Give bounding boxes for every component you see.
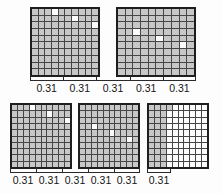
shaded-hundredth-cell [79, 69, 85, 75]
shaded-hundredth-cell [65, 22, 71, 28]
shaded-hundredth-cell [187, 42, 194, 48]
shaded-hundredth-cell [12, 105, 17, 110]
shaded-hundredth-cell [141, 63, 148, 69]
unshaded-hundredth-cell [173, 155, 178, 160]
shaded-hundredth-cell [104, 105, 109, 110]
shaded-hundredth-cell [24, 130, 29, 135]
shaded-hundredth-cell [36, 162, 41, 167]
shaded-hundredth-cell [149, 63, 156, 69]
shaded-hundredth-cell [104, 155, 109, 160]
unshaded-hundredth-cell [190, 111, 195, 116]
shaded-hundredth-cell [24, 162, 29, 167]
unshaded-hundredth-cell [179, 105, 184, 110]
shaded-hundredth-cell [115, 162, 120, 167]
shaded-hundredth-cell [52, 69, 58, 75]
shaded-hundredth-cell [115, 105, 120, 110]
shaded-hundredth-cell [72, 63, 78, 69]
unshaded-hundredth-cell [202, 105, 207, 110]
shaded-hundredth-cell [127, 124, 132, 129]
shaded-hundredth-cell [30, 149, 35, 154]
shaded-hundredth-cell [53, 137, 58, 142]
shaded-hundredth-cell [161, 155, 166, 160]
top-bracket-ruler [30, 80, 196, 81]
shaded-hundredth-cell [32, 36, 38, 42]
shaded-hundredth-cell [167, 105, 172, 110]
shaded-hundredth-cell [32, 63, 38, 69]
unshaded-hundredth-cell [196, 118, 201, 123]
unshaded-hundredth-cell [173, 130, 178, 135]
shaded-hundredth-cell [126, 9, 133, 15]
shaded-hundredth-cell [12, 149, 17, 154]
shaded-hundredth-cell [86, 124, 91, 129]
unshaded-hundredth-cell [190, 105, 195, 110]
shaded-hundredth-cell [45, 16, 51, 22]
shaded-hundredth-cell [127, 118, 132, 123]
shaded-hundredth-cell [164, 49, 171, 55]
unshaded-hundredth-cell [52, 9, 58, 15]
unshaded-hundredth-cell [196, 162, 201, 167]
shaded-hundredth-cell [161, 105, 166, 110]
shaded-hundredth-cell [45, 9, 51, 15]
shaded-hundredth-cell [59, 143, 64, 148]
shaded-hundredth-cell [72, 29, 78, 35]
unshaded-hundredth-cell [190, 143, 195, 148]
shaded-hundredth-cell [24, 105, 29, 110]
shaded-hundredth-cell [172, 36, 179, 42]
shaded-hundredth-cell [161, 130, 166, 135]
shaded-hundredth-cell [53, 124, 58, 129]
shaded-hundredth-cell [59, 63, 65, 69]
unshaded-hundredth-cell [180, 42, 187, 48]
shaded-hundredth-cell [86, 162, 91, 167]
shaded-hundredth-cell [18, 105, 23, 110]
shaded-hundredth-cell [92, 130, 97, 135]
shaded-hundredth-cell [121, 149, 126, 154]
unshaded-hundredth-cell [196, 105, 201, 110]
shaded-hundredth-cell [98, 124, 103, 129]
shaded-hundredth-cell [121, 130, 126, 135]
shaded-hundredth-cell [39, 49, 45, 55]
unshaded-hundredth-cell [196, 155, 201, 160]
unshaded-hundredth-cell [196, 111, 201, 116]
shaded-hundredth-cell [92, 155, 97, 160]
unshaded-hundredth-cell [179, 149, 184, 154]
shaded-hundredth-cell [110, 155, 115, 160]
shaded-hundredth-cell [52, 63, 58, 69]
shaded-hundredth-cell [47, 137, 52, 142]
shaded-hundredth-cell [45, 42, 51, 48]
unshaded-hundredth-cell [190, 124, 195, 129]
shaded-hundredth-cell [53, 105, 58, 110]
shaded-hundredth-cell [149, 49, 156, 55]
shaded-hundredth-cell [32, 49, 38, 55]
shaded-hundredth-cell [141, 29, 148, 35]
unshaded-hundredth-cell [167, 155, 172, 160]
shaded-hundredth-cell [86, 9, 92, 15]
unshaded-hundredth-cell [173, 137, 178, 142]
unshaded-hundredth-cell [173, 143, 178, 148]
shaded-hundredth-cell [39, 63, 45, 69]
shaded-hundredth-cell [18, 155, 23, 160]
shaded-hundredth-cell [65, 143, 70, 148]
shaded-hundredth-cell [52, 22, 58, 28]
unshaded-hundredth-cell [196, 124, 201, 129]
shaded-hundredth-cell [39, 29, 45, 35]
unshaded-hundredth-cell [30, 105, 35, 110]
unshaded-hundredth-cell [202, 111, 207, 116]
shaded-hundredth-cell [118, 63, 125, 69]
shaded-hundredth-cell [149, 56, 156, 62]
unshaded-hundredth-cell [184, 118, 189, 123]
shaded-hundredth-cell [86, 49, 92, 55]
shaded-hundredth-cell [133, 162, 138, 167]
shaded-hundredth-cell [86, 130, 91, 135]
unshaded-hundredth-cell [184, 137, 189, 142]
unshaded-hundredth-cell [173, 149, 178, 154]
shaded-hundredth-cell [53, 143, 58, 148]
shaded-hundredth-cell [149, 42, 156, 48]
shaded-hundredth-cell [164, 63, 171, 69]
shaded-hundredth-cell [65, 36, 71, 42]
shaded-hundredth-cell [141, 36, 148, 42]
shaded-hundredth-cell [187, 16, 194, 22]
shaded-hundredth-cell [104, 111, 109, 116]
unshaded-hundredth-cell [72, 16, 78, 22]
shaded-hundredth-cell [115, 111, 120, 116]
shaded-hundredth-cell [133, 143, 138, 148]
